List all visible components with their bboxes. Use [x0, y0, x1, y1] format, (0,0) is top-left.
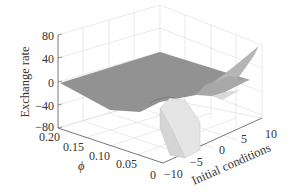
- ic-tick: −5: [190, 155, 203, 169]
- z-tick-labels: 80 40 0 −40 −80: [35, 29, 54, 134]
- phi-tick: 0.20: [39, 130, 60, 144]
- z-tick: 80: [42, 29, 54, 43]
- z-tick: 0: [48, 76, 54, 90]
- phi-tick: 0.05: [116, 157, 137, 171]
- z-tick: 40: [42, 52, 54, 66]
- ic-tick: −10: [164, 167, 183, 181]
- ic-tick: 0: [219, 143, 225, 157]
- ic-tick: 5: [241, 132, 247, 146]
- ic-tick: 10: [265, 127, 277, 141]
- phi-axis-label: ϕ: [78, 159, 85, 173]
- z-tick: −40: [35, 99, 54, 113]
- phi-tick: 0.15: [63, 140, 84, 154]
- z-axis-label: Exchange rate: [18, 46, 32, 118]
- surface: [60, 47, 258, 158]
- phi-tick: 0: [150, 168, 156, 182]
- phi-tick: 0.10: [89, 149, 110, 163]
- z-ticks-marks: [58, 34, 62, 128]
- surface-chart: 80 40 0 −40 −80 0.20 0.15 0.10 0.05 0 −1…: [0, 0, 295, 193]
- phi-tick-labels: 0.20 0.15 0.10 0.05 0: [39, 130, 156, 182]
